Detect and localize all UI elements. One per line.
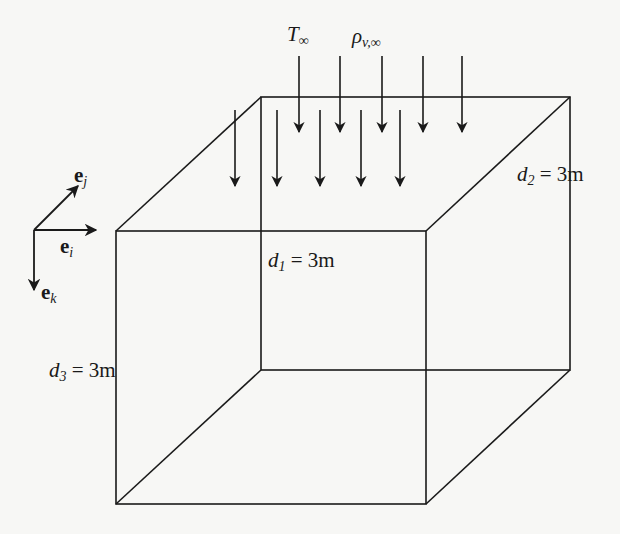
label-sub: 3 <box>60 369 67 384</box>
label-base: d <box>517 162 528 186</box>
d3-label: d3 = 3m <box>49 360 116 384</box>
label-base: d <box>268 248 279 272</box>
label-value: = 3m <box>535 162 584 186</box>
label-base: e <box>74 163 83 187</box>
label-base: e <box>60 234 69 258</box>
label-value: = 3m <box>67 358 116 382</box>
ek-label: ek <box>41 282 57 306</box>
label-base: e <box>41 280 50 304</box>
d2-label: d2 = 3m <box>517 164 584 188</box>
d1-label: d1 = 3m <box>268 250 335 274</box>
label-sub: 1 <box>279 259 286 274</box>
label-sub: v,∞ <box>362 35 381 50</box>
label-sub: ∞ <box>299 33 309 48</box>
t-infinity-label: T∞ <box>287 24 309 48</box>
label-base: T <box>287 22 299 46</box>
box-edges <box>116 97 570 504</box>
ei-label: ei <box>60 236 73 260</box>
label-sub: k <box>50 291 56 306</box>
flux-arrows <box>235 56 462 186</box>
label-base: ρ <box>352 24 362 48</box>
label-sub: i <box>69 245 73 260</box>
box-diagram: T∞ ρv,∞ d2 = 3m d1 = 3m d3 = 3m ej ei ek <box>0 0 620 534</box>
label-value: = 3m <box>286 248 335 272</box>
ej-label: ej <box>74 165 87 189</box>
label-sub: 2 <box>528 173 535 188</box>
label-base: d <box>49 358 60 382</box>
label-sub: j <box>83 174 87 189</box>
rho-infinity-label: ρv,∞ <box>352 26 381 50</box>
